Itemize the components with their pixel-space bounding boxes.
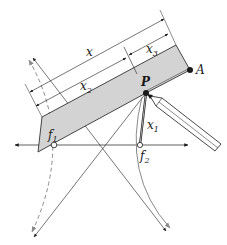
ellipse-construction-diagram: x x2 x3 x1 P A f1 f2: [0, 0, 227, 245]
focus-f2-pin: [137, 142, 142, 147]
label-x3: x3: [146, 42, 158, 58]
pencil: [147, 94, 221, 151]
point-P: [143, 90, 149, 96]
label-A: A: [195, 63, 205, 77]
point-A: [187, 67, 193, 73]
label-x1: x1: [147, 118, 159, 134]
label-x: x: [86, 45, 93, 59]
dim-x-right-tick: [160, 10, 176, 45]
label-f2: f2: [139, 149, 150, 165]
label-P: P: [140, 75, 151, 89]
ruler: [38, 45, 190, 152]
label-x2: x2: [80, 79, 92, 95]
dim-x-left-tick: [25, 84, 42, 117]
